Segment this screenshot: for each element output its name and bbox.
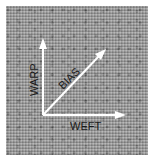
- grain-diagram: WARP BIAS WEFT: [0, 0, 155, 167]
- warp-label: WARP: [28, 63, 40, 96]
- bias-arrow: [43, 49, 106, 115]
- weft-label: WEFT: [70, 120, 101, 132]
- weft-arrow: [43, 111, 126, 119]
- warp-arrow: [39, 38, 47, 115]
